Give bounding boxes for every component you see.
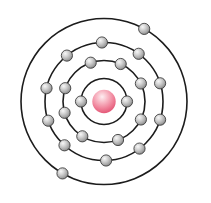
electron-shell-3: [59, 140, 70, 151]
electron-shell-2: [60, 83, 71, 94]
electron-shell-2: [135, 78, 146, 89]
nucleus: [92, 90, 115, 113]
electron-shell-3: [134, 143, 145, 154]
electron-shell-2: [112, 134, 123, 145]
electron-shell-2: [59, 107, 70, 118]
electron-shell-1: [121, 96, 132, 107]
electron-shell-3: [155, 78, 166, 89]
electron-shell-3: [155, 114, 166, 125]
electron-shell-4: [57, 168, 68, 179]
electron-shell-3: [133, 48, 144, 59]
electron-shell-2: [135, 114, 146, 125]
electron-shell-2: [77, 131, 88, 142]
electron-shell-3: [41, 83, 52, 94]
electron-shell-3: [43, 115, 54, 126]
electron-shell-2: [115, 58, 126, 69]
bohr-model-svg: [0, 0, 211, 203]
atom-diagram: [0, 0, 211, 203]
electron-shell-3: [96, 37, 107, 48]
electron-shell-3: [61, 50, 72, 61]
electron-shell-4: [139, 23, 150, 34]
electron-shell-1: [75, 96, 86, 107]
electron-shell-3: [101, 155, 112, 166]
electron-shell-2: [85, 57, 96, 68]
